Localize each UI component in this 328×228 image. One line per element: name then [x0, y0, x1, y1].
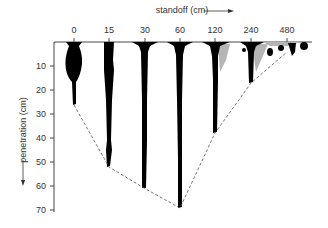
- jet-standoff-480-fragment: [288, 43, 296, 56]
- x-tick-240: 240: [243, 25, 258, 35]
- y-tick-70: 70: [36, 205, 46, 215]
- y-axis-arrow-icon: [21, 160, 25, 186]
- jet-standoff-480-fragment: [278, 45, 284, 51]
- jet-standoff-480-fragment: [267, 48, 273, 56]
- jet-standoff-480-fragment: [300, 42, 308, 50]
- x-axis-title: standoff (cm): [156, 5, 208, 15]
- y-tick-10: 10: [36, 61, 46, 71]
- y-tick-60: 60: [36, 181, 46, 191]
- x-tick-30: 30: [140, 25, 150, 35]
- jet-profiles: [65, 42, 308, 208]
- x-tick-0: 0: [71, 25, 76, 35]
- y-axis-title: penetration (cm): [18, 97, 28, 163]
- x-axis-arrow-icon: [204, 9, 234, 13]
- jet-standoff-0: [65, 42, 82, 105]
- x-tick-60: 60: [175, 25, 185, 35]
- y-tick-40: 40: [36, 133, 46, 143]
- penetration-chart: standoff (cm) 0 15 30 60 120 240 480 10 …: [0, 0, 328, 228]
- x-tick-480: 480: [279, 25, 294, 35]
- y-tick-30: 30: [36, 109, 46, 119]
- x-tick-labels: 0 15 30 60 120 240 480: [71, 25, 294, 35]
- jet-standoff-120-spall: [218, 44, 230, 72]
- y-tick-20: 20: [36, 85, 46, 95]
- jet-standoff-60: [167, 42, 193, 208]
- jet-standoff-30: [132, 42, 158, 188]
- x-tick-15: 15: [104, 25, 114, 35]
- jet-standoff-15: [104, 42, 114, 167]
- y-tick-50: 50: [36, 157, 46, 167]
- y-tick-labels: 10 20 30 40 50 60 70: [36, 61, 46, 215]
- x-tick-120: 120: [207, 25, 222, 35]
